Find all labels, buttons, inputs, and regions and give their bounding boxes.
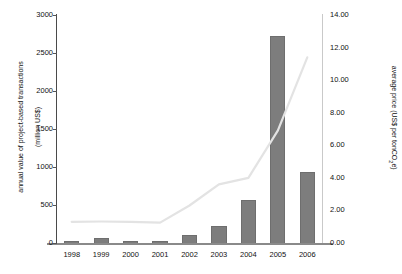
- y-axis-right-tick-label: 2.00: [330, 205, 362, 214]
- y-axis-right-tick-label: 14.00: [330, 10, 362, 19]
- y-axis-left-tick-label: 1500: [23, 124, 53, 133]
- price-line-series: [57, 15, 322, 243]
- y-axis-left-tick-label: 3000: [23, 10, 53, 19]
- y-axis-left-tick-label: 500: [23, 200, 53, 209]
- y-axis-right-tick-label: 4.00: [330, 173, 362, 182]
- y-axis-left-tick-label: 2000: [23, 86, 53, 95]
- y-axis-right-tick-label: 6.00: [330, 140, 362, 149]
- x-axis-line: [47, 243, 333, 245]
- y-axis-right-tick-label: 0.00: [330, 238, 362, 247]
- y-axis-right-tick-label: 12.00: [330, 43, 362, 52]
- y-axis-left-tick-mark: [53, 243, 57, 244]
- y-axis-left-tick-label: 1000: [23, 162, 53, 171]
- y-axis-left-tick-label: 2500: [23, 48, 53, 57]
- x-axis-tick-label: 2006: [287, 250, 327, 259]
- y-axis-right-line: [322, 14, 323, 244]
- plot-area: [57, 15, 322, 243]
- y-axis-right-title: average price (US$ per tonCO2e): [387, 33, 402, 203]
- y-axis-right-tick-label: 10.00: [330, 75, 362, 84]
- y-axis-left-tick-label: 0: [23, 238, 53, 247]
- y-axis-right-title-prefix: average price (US$ per tonCO: [391, 66, 398, 161]
- y-axis-right-tick-label: 8.00: [330, 108, 362, 117]
- y-axis-right-title-suffix: e): [391, 163, 398, 169]
